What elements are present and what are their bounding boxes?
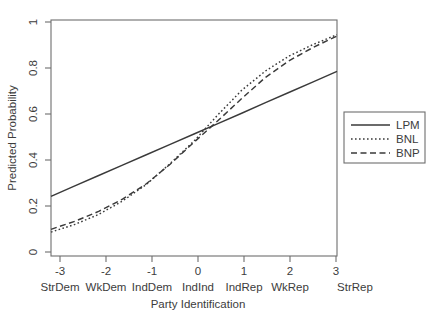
series-line-bnp bbox=[51, 36, 337, 229]
x-tick-label: 3 bbox=[333, 265, 339, 277]
x-axis-title: Party Identification bbox=[151, 298, 246, 310]
x-tick-label: 1 bbox=[241, 265, 247, 277]
y-tick-label: 0.2 bbox=[27, 198, 39, 214]
legend-label-bnl: BNL bbox=[396, 133, 419, 145]
x-category-label: StrDem bbox=[41, 281, 80, 293]
x-axis-category-labels: StrDem WkDem IndDem IndInd IndRep WkRep … bbox=[41, 281, 373, 293]
y-axis-tick-labels: 0 0.2 0.4 0.6 0.8 1 bbox=[27, 19, 39, 255]
x-tick-label: 0 bbox=[195, 265, 201, 277]
y-tick-label: 1 bbox=[27, 19, 39, 25]
y-tick-label: 0.4 bbox=[27, 151, 39, 168]
x-tick-label: -3 bbox=[55, 265, 65, 277]
y-tick-label: 0.6 bbox=[27, 106, 39, 122]
predicted-probability-line-chart: 0 0.2 0.4 0.6 0.8 1 Predicted Probabilit… bbox=[0, 0, 429, 319]
plot-frame bbox=[51, 20, 337, 256]
x-category-label: IndRep bbox=[225, 281, 262, 293]
series-group bbox=[51, 35, 337, 233]
series-line-lpm bbox=[51, 71, 337, 196]
y-axis-ticks bbox=[45, 22, 51, 252]
chart-figure: 0 0.2 0.4 0.6 0.8 1 Predicted Probabilit… bbox=[0, 0, 429, 319]
x-category-label: WkRep bbox=[271, 281, 309, 293]
x-category-label: WkDem bbox=[86, 281, 127, 293]
x-category-label: IndInd bbox=[182, 281, 214, 293]
x-tick-label: 2 bbox=[287, 265, 293, 277]
y-tick-label: 0 bbox=[27, 249, 39, 255]
legend: LPM BNL BNP bbox=[344, 112, 425, 163]
x-category-label: StrRep bbox=[337, 281, 373, 293]
x-tick-label: -2 bbox=[101, 265, 111, 277]
x-axis-tick-labels: -3 -2 -1 0 1 2 3 bbox=[55, 265, 339, 277]
y-tick-label: 0.8 bbox=[27, 60, 39, 76]
x-tick-label: -1 bbox=[147, 265, 157, 277]
y-axis-title: Predicted Probability bbox=[6, 85, 18, 191]
legend-label-lpm: LPM bbox=[396, 119, 420, 131]
x-axis-ticks bbox=[60, 256, 336, 262]
legend-label-bnp: BNP bbox=[396, 147, 420, 159]
x-category-label: IndDem bbox=[132, 281, 172, 293]
